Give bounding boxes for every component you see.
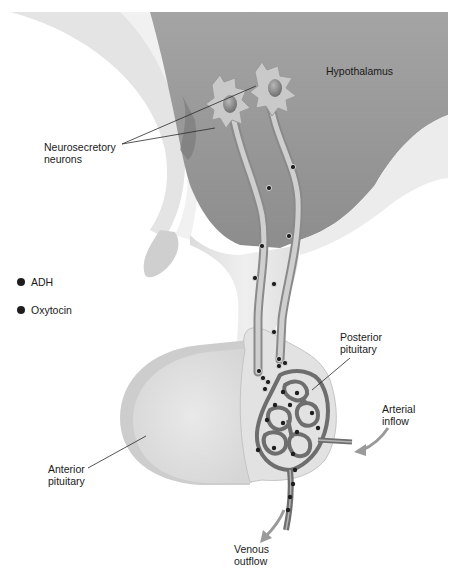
legend-item-oxytocin: Oxytocin — [17, 304, 72, 316]
legend-item-adh: ADH — [17, 276, 53, 288]
label-anterior-pituitary: Anterior pituitary — [48, 463, 85, 487]
label-posterior-pituitary: Posterior pituitary — [340, 331, 382, 355]
granule-dot-icon — [17, 306, 25, 314]
label-neurosecretory-neurons: Neurosecretory neurons — [44, 141, 116, 165]
legend-label: ADH — [31, 276, 53, 288]
label-venous-outflow: Venous outflow — [234, 543, 269, 567]
anterior-pituitary — [120, 340, 252, 485]
label-hypothalamus: Hypothalamus — [326, 65, 393, 77]
venous-outflow-arrow — [260, 510, 284, 543]
legend-label: Oxytocin — [31, 304, 72, 316]
label-arterial-inflow: Arterial inflow — [382, 403, 415, 427]
arterial-inflow-arrow — [354, 428, 388, 456]
granule-dot-icon — [17, 278, 25, 286]
